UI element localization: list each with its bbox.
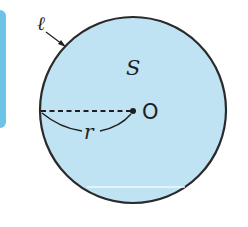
circle-diagram: ℓ S r O [0, 0, 248, 227]
circle-label: ℓ [37, 12, 45, 34]
area-label: S [126, 56, 140, 80]
arrow-head-icon [58, 40, 66, 47]
radius-label: r [84, 120, 95, 144]
center-point [130, 108, 136, 114]
center-label: O [142, 100, 159, 124]
